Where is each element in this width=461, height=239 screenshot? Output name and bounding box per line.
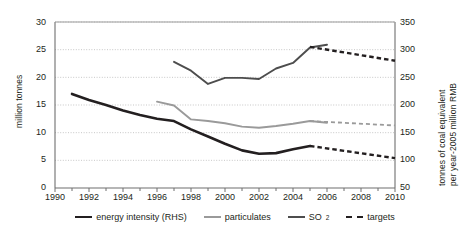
legend-label-energy-intensity: energy intensity (RHS) (96, 212, 187, 222)
legend-swatch-line-icon (288, 216, 305, 218)
legend-swatch-line-icon (204, 216, 221, 218)
legend-item-energy-intensity[interactable]: energy intensity (RHS) (75, 212, 187, 222)
legend-label-targets: targets (367, 212, 395, 222)
series-lines (72, 45, 395, 158)
legend-swatch-dashed-line-icon (346, 216, 363, 218)
plot-area (0, 0, 461, 239)
legend-item-so2[interactable]: SO2 (288, 212, 330, 222)
legend-label-so2: SO (309, 212, 322, 222)
legend-label-so2-subscript: 2 (326, 214, 330, 221)
gridlines (55, 22, 395, 160)
legend-swatch-line-icon (75, 216, 92, 218)
legend-item-targets[interactable]: targets (346, 212, 395, 222)
x-axis-ticks (55, 188, 395, 192)
legend-label-particulates: particulates (225, 212, 271, 222)
chart-container: million tonnes tonnes of coal equivalent… (0, 0, 461, 239)
legend-item-particulates[interactable]: particulates (204, 212, 271, 222)
legend: energy intensity (RHS) particulates SO2 … (30, 206, 440, 228)
